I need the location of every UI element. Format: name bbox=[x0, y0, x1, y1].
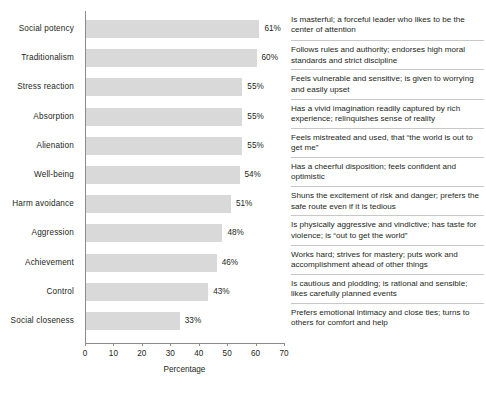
category-label: Control bbox=[0, 288, 74, 296]
x-axis-tick-mark bbox=[142, 343, 143, 346]
description-text: Feels vulnerable and sensitive; is given… bbox=[291, 70, 484, 95]
bar bbox=[86, 312, 180, 330]
bar bbox=[86, 137, 242, 155]
description-row: Is masterful; a forceful leader who like… bbox=[291, 11, 484, 40]
chart-figure: Social potencyTraditionalismStress react… bbox=[0, 0, 486, 399]
bar-value-label: 54% bbox=[240, 166, 261, 184]
bar bbox=[86, 224, 222, 242]
category-label: Aggression bbox=[0, 229, 74, 237]
description-column: Is masterful; a forceful leader who like… bbox=[291, 0, 486, 399]
description-row: Is physically aggressive and vindictive;… bbox=[291, 215, 484, 244]
category-label: Social potency bbox=[0, 25, 74, 33]
description-text: Has a cheerful disposition; feels confid… bbox=[291, 158, 484, 183]
description-row: Is cautious and plodding; is rational an… bbox=[291, 274, 484, 303]
bar bbox=[86, 254, 217, 272]
x-axis-tick-mark bbox=[85, 343, 86, 346]
bar-value-label: 48% bbox=[222, 224, 243, 242]
description-text: Is cautious and plodding; is rational an… bbox=[291, 275, 484, 300]
x-axis-tick-label: 40 bbox=[194, 349, 203, 358]
description-row: Has a cheerful disposition; feels confid… bbox=[291, 157, 484, 186]
x-axis-title: Percentage bbox=[85, 365, 284, 374]
bar-value-label: 61% bbox=[259, 20, 280, 38]
category-label: Stress reaction bbox=[0, 83, 74, 91]
bar-value-label: 33% bbox=[180, 312, 201, 330]
x-axis-tick-mark bbox=[227, 343, 228, 346]
x-axis-tick-mark bbox=[113, 343, 114, 346]
category-label: Absorption bbox=[0, 113, 74, 121]
bar-value-label: 55% bbox=[242, 108, 263, 126]
bar-value-label: 55% bbox=[242, 78, 263, 96]
description-text: Has a vivid imagination readily captured… bbox=[291, 100, 484, 125]
bar-value-label: 60% bbox=[257, 49, 278, 67]
description-text: Prefers emotional intimacy and close tie… bbox=[291, 304, 484, 329]
description-row: Has a vivid imagination readily captured… bbox=[291, 99, 484, 128]
x-axis-tick-mark bbox=[256, 343, 257, 346]
plot-area: 61%60%55%55%55%54%51%48%46%43%33%0102030… bbox=[85, 11, 284, 343]
bar bbox=[86, 283, 208, 301]
description-text: Feels mistreated and used, that “the wor… bbox=[291, 129, 484, 154]
description-row: Follows rules and authority; endorses hi… bbox=[291, 40, 484, 69]
category-label: Achievement bbox=[0, 259, 74, 267]
description-row: Feels mistreated and used, that “the wor… bbox=[291, 128, 484, 157]
x-axis-tick-label: 30 bbox=[166, 349, 175, 358]
bar bbox=[86, 49, 257, 67]
description-row: Prefers emotional intimacy and close tie… bbox=[291, 303, 484, 332]
bar bbox=[86, 166, 240, 184]
category-label-column: Social potencyTraditionalismStress react… bbox=[0, 0, 74, 399]
category-label: Alienation bbox=[0, 142, 74, 150]
x-axis-tick-label: 0 bbox=[83, 349, 88, 358]
bar-value-label: 55% bbox=[242, 137, 263, 155]
description-text: Works hard; strives for mastery; puts wo… bbox=[291, 246, 484, 271]
x-axis-tick-label: 70 bbox=[279, 349, 288, 358]
x-axis-tick-label: 50 bbox=[223, 349, 232, 358]
x-axis-tick-mark bbox=[199, 343, 200, 346]
description-text: Is masterful; a forceful leader who like… bbox=[291, 11, 484, 36]
description-row: Feels vulnerable and sensitive; is given… bbox=[291, 69, 484, 98]
x-axis-line bbox=[85, 343, 284, 344]
description-text: Shuns the excitement of risk and danger;… bbox=[291, 187, 484, 212]
bar bbox=[86, 78, 242, 96]
category-label: Social closeness bbox=[0, 317, 74, 325]
description-row: Works hard; strives for mastery; puts wo… bbox=[291, 245, 484, 274]
category-label: Traditionalism bbox=[0, 54, 74, 62]
description-text: Follows rules and authority; endorses hi… bbox=[291, 41, 484, 66]
x-axis-tick-label: 10 bbox=[109, 349, 118, 358]
x-axis-tick-mark bbox=[170, 343, 171, 346]
description-row: Shuns the excitement of risk and danger;… bbox=[291, 186, 484, 215]
x-axis-tick-label: 20 bbox=[137, 349, 146, 358]
bar bbox=[86, 108, 242, 126]
bar-value-label: 43% bbox=[208, 283, 229, 301]
category-label: Well-being bbox=[0, 171, 74, 179]
bar bbox=[86, 20, 259, 38]
bar-value-label: 46% bbox=[217, 254, 238, 272]
category-label: Harm avoidance bbox=[0, 200, 74, 208]
bar bbox=[86, 195, 231, 213]
description-text: Is physically aggressive and vindictive;… bbox=[291, 216, 484, 241]
bar-value-label: 51% bbox=[231, 195, 252, 213]
x-axis-tick-label: 60 bbox=[251, 349, 260, 358]
x-axis-tick-mark bbox=[284, 343, 285, 346]
